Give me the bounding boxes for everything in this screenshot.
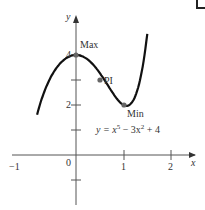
y-axis-arrow-icon — [73, 15, 79, 23]
function-graph: Max PI Min 4 2 −1 0 1 2 x y y = x5 − 3x2… — [0, 0, 205, 210]
inflection-point — [97, 77, 102, 82]
x-tick-label-neg1: −1 — [9, 161, 20, 172]
y-tick-label-4: 4 — [66, 49, 71, 60]
page-corner-mark — [196, 0, 205, 9]
max-label: Max — [80, 39, 98, 50]
min-label: Min — [127, 108, 144, 119]
x-tick-label-1: 1 — [121, 161, 126, 172]
y-tick-label-2: 2 — [66, 99, 71, 110]
equation-label: y = x5 − 3x2 + 4 — [95, 123, 160, 135]
x-tick-label-0: 0 — [66, 157, 71, 168]
x-tick-label-2: 2 — [168, 161, 173, 172]
max-point — [73, 52, 78, 57]
min-point — [121, 102, 126, 107]
x-axis-label: x — [190, 157, 196, 168]
y-axis-label: y — [65, 11, 71, 22]
pi-label: PI — [104, 75, 113, 86]
